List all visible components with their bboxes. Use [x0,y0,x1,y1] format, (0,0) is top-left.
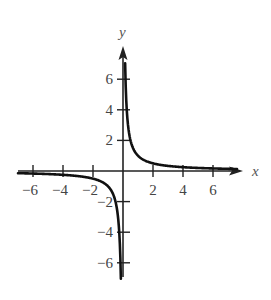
y-tick-label: 4 [106,102,114,118]
x-tick-label: 2 [149,182,157,198]
x-tick-label: −2 [82,182,98,198]
axis-labels: −6−4−2246642−2−4−6xy [22,24,259,271]
curve-right-branch [125,63,237,169]
y-tick-label: 6 [106,71,114,87]
x-tick-label: 6 [209,182,217,198]
y-tick-label: −6 [97,255,113,271]
x-tick-label: 4 [179,182,187,198]
y-tick-label: −4 [97,224,113,240]
y-tick-label: −2 [97,194,113,210]
x-axis-label: x [251,163,259,179]
y-tick-label: 2 [106,132,114,148]
y-axis-label: y [117,24,126,40]
x-tick-label: −4 [52,182,68,198]
graph-area: −6−4−2246642−2−4−6xy [0,0,271,300]
axes [18,46,243,277]
x-tick-label: −6 [22,182,38,198]
